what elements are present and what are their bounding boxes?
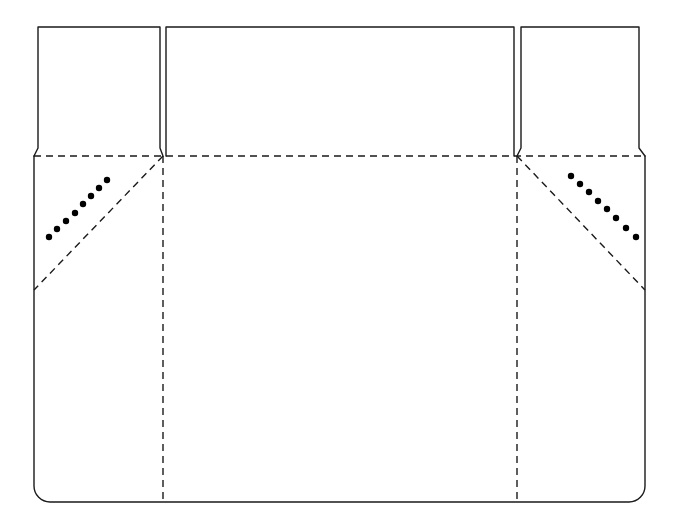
body-outline-cut-path xyxy=(34,156,645,502)
glue-dot xyxy=(586,189,592,195)
center-flap-cut-path xyxy=(166,27,514,156)
glue-dot xyxy=(80,201,86,207)
dieline-svg xyxy=(0,0,678,532)
left-glue-dot-group xyxy=(46,177,110,240)
glue-dot xyxy=(623,225,629,231)
glue-dot xyxy=(54,226,60,232)
left-diagonal-fold-line xyxy=(34,156,163,290)
glue-dot xyxy=(63,218,69,224)
glue-dot xyxy=(46,234,52,240)
right-diagonal-fold-line xyxy=(517,156,645,290)
glue-dot xyxy=(96,185,102,191)
left-flap-cut-path xyxy=(34,27,163,156)
glue-dot xyxy=(88,193,94,199)
right-glue-dot-group xyxy=(568,173,639,240)
glue-dot xyxy=(568,173,574,179)
glue-dot xyxy=(577,181,583,187)
glue-dot xyxy=(104,177,110,183)
glue-dot xyxy=(613,215,619,221)
glue-dot xyxy=(633,234,639,240)
glue-dot xyxy=(604,206,610,212)
right-flap-cut-path xyxy=(517,27,645,156)
glue-dot xyxy=(72,210,78,216)
glue-dot xyxy=(595,198,601,204)
dieline-diagram xyxy=(0,0,678,532)
